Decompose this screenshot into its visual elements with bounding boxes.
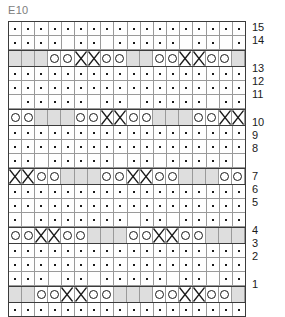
cell-blank xyxy=(22,51,35,66)
cell-blank xyxy=(61,110,74,125)
cell-dot xyxy=(35,258,48,271)
cell-dot xyxy=(154,140,167,153)
cell-dot xyxy=(114,126,127,139)
cell-dot xyxy=(22,199,35,212)
cell-dot xyxy=(9,272,22,285)
cell-dot xyxy=(167,258,180,271)
cell-blank xyxy=(9,51,22,66)
cell-circle xyxy=(153,51,166,66)
row-label: 10 xyxy=(252,116,282,129)
cell-dot xyxy=(220,244,233,257)
cell-dot xyxy=(114,95,127,108)
cell-cross xyxy=(193,51,206,66)
cell-circle xyxy=(101,169,114,184)
cell-dot xyxy=(154,258,167,271)
cell-dot xyxy=(101,81,114,94)
cell-cross xyxy=(48,228,61,243)
cell-dot xyxy=(220,258,233,271)
cell-blank xyxy=(88,95,101,108)
row-label: 1 xyxy=(252,278,282,291)
cell-dot xyxy=(75,185,88,198)
cell-dot xyxy=(9,185,22,198)
cell-dot xyxy=(154,199,167,212)
cell-cross xyxy=(179,51,192,66)
cell-dot xyxy=(220,213,233,226)
cell-dot xyxy=(180,244,193,257)
cell-blank xyxy=(219,228,232,243)
cell-dot xyxy=(49,199,62,212)
cell-circle xyxy=(232,169,245,184)
row-label: 14 xyxy=(252,34,282,47)
cell-dot xyxy=(193,95,206,108)
cell-dot xyxy=(22,67,35,80)
cell-dot xyxy=(101,213,114,226)
cell-dot xyxy=(101,303,114,316)
cell-dot xyxy=(154,22,167,35)
cell-blank xyxy=(128,213,141,226)
cell-dot xyxy=(114,140,127,153)
cell-dot xyxy=(167,185,180,198)
cell-circle xyxy=(140,228,153,243)
cell-dot xyxy=(220,140,233,153)
cell-dot xyxy=(193,185,206,198)
cell-dot xyxy=(88,140,101,153)
cell-dot xyxy=(220,303,233,316)
cell-dot xyxy=(62,199,75,212)
cell-blank xyxy=(35,110,48,125)
cell-cross xyxy=(140,169,153,184)
cell-dot xyxy=(128,36,141,49)
cell-dot xyxy=(49,258,62,271)
cell-dot xyxy=(193,199,206,212)
cell-dot xyxy=(35,95,48,108)
cell-cross xyxy=(101,110,114,125)
cell-dot xyxy=(75,213,88,226)
stitch-row xyxy=(9,185,245,199)
cell-blank xyxy=(220,36,233,49)
cell-dot xyxy=(88,154,101,167)
cell-blank xyxy=(101,228,114,243)
cell-dot xyxy=(154,126,167,139)
cell-dot xyxy=(233,199,245,212)
cell-dot xyxy=(88,126,101,139)
cell-dot xyxy=(128,303,141,316)
cell-blank xyxy=(128,95,141,108)
cell-circle xyxy=(140,110,153,125)
stitch-row xyxy=(9,272,245,286)
cell-dot xyxy=(62,154,75,167)
cell-dot xyxy=(35,199,48,212)
cell-dot xyxy=(128,67,141,80)
cell-dot xyxy=(62,303,75,316)
cell-dot xyxy=(9,140,22,153)
cell-dot xyxy=(62,272,75,285)
row-label: 12 xyxy=(252,75,282,88)
cell-blank xyxy=(48,110,61,125)
cell-dot xyxy=(22,95,35,108)
cell-dot xyxy=(9,244,22,257)
cell-dot xyxy=(9,154,22,167)
cell-cross xyxy=(232,110,245,125)
cell-cross xyxy=(219,110,232,125)
cell-circle xyxy=(219,51,232,66)
cell-circle xyxy=(153,169,166,184)
cell-dot xyxy=(62,213,75,226)
cell-cross xyxy=(22,169,35,184)
cell-dot xyxy=(167,36,180,49)
cell-dot xyxy=(167,244,180,257)
cell-dot xyxy=(233,272,245,285)
cell-dot xyxy=(141,36,154,49)
cell-dot xyxy=(180,67,193,80)
cell-dot xyxy=(180,258,193,271)
cell-dot xyxy=(141,154,154,167)
cell-dot xyxy=(154,81,167,94)
cell-dot xyxy=(154,36,167,49)
cell-circle xyxy=(166,169,179,184)
cell-circle xyxy=(114,169,127,184)
cell-dot xyxy=(114,185,127,198)
cell-dot xyxy=(141,199,154,212)
pattern-row xyxy=(9,109,245,126)
cell-dot xyxy=(22,81,35,94)
cell-cross xyxy=(166,228,179,243)
cell-dot xyxy=(233,244,245,257)
cell-dot xyxy=(128,258,141,271)
